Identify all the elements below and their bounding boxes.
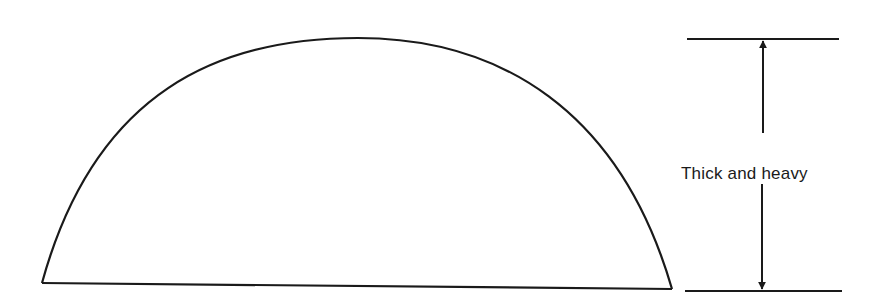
dimension-label: Thick and heavy [681, 164, 808, 184]
diagram-canvas [0, 0, 878, 305]
dome-arc [42, 38, 672, 289]
dome-baseline [42, 283, 672, 289]
